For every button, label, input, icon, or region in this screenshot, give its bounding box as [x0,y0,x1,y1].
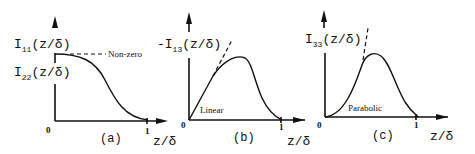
parabolic-tangent-dash [363,28,368,60]
x-tick-label: 1 [414,120,419,130]
annotation-nonzero: Non-zero [108,49,142,59]
ylabel-i11: I11(z/δ) [14,37,70,54]
xlabel-c: z/δ [430,129,454,144]
x-origin-label: 0 [46,125,51,135]
diagram-canvas: I11(z/δ) I22(z/δ) Non-zero 0 1 (a) z/δ -… [0,0,475,154]
y-axis-arrow-icon [321,10,327,22]
curve-i11 [55,54,148,120]
x-tick-label: 1 [145,126,150,136]
y-axis-arrow-icon [52,16,58,28]
x-origin-label: 0 [317,120,322,130]
panel-c: I33(z/δ) Parabolic 0 1 (c) z/δ [305,10,454,144]
ylabel-i33: I33(z/δ) [305,32,361,49]
x-axis-arrow-icon [293,117,305,123]
xlabel-b: z/δ [287,134,311,149]
x-origin-label: 0 [181,120,186,130]
x-axis-arrow-icon [436,114,448,120]
caption-a: (a) [100,132,122,146]
ylabel-i22: I22(z/δ) [14,65,70,82]
xlabel-a: z/δ [153,134,177,149]
annotation-linear: Linear [200,105,223,115]
y-axis-arrow-icon [186,12,192,24]
x-tick-label: 1 [279,122,284,132]
ylabel-i13: -I13(z/δ) [157,37,221,54]
caption-b: (b) [233,131,255,145]
panel-a: I11(z/δ) I22(z/δ) Non-zero 0 1 (a) [14,16,160,146]
x-axis-arrow-icon [156,118,168,124]
panel-b: -I13(z/δ) Linear 0 1 (b) z/δ [157,12,311,149]
caption-c: (c) [372,129,394,143]
annotation-parabolic: Parabolic [348,103,382,113]
